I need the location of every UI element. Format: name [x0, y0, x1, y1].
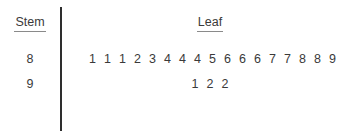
stem-and-leaf-plot: Stem Leaf 8 11123444566677889 9 122: [0, 0, 358, 138]
column-header-leaf-label: Leaf: [197, 15, 223, 32]
stem-value: 9: [0, 77, 60, 91]
leaf-digit: 1: [100, 52, 115, 66]
leaf-digit: 2: [130, 52, 145, 66]
leaf-values-row: 11123444566677889: [62, 52, 358, 66]
leaf-digit: 6: [235, 52, 250, 66]
leaf-digit: 6: [250, 52, 265, 66]
leaf-digit: 1: [85, 52, 100, 66]
leaf-digit: 7: [265, 52, 280, 66]
leaf-digit: 1: [115, 52, 130, 66]
column-header-stem-label: Stem: [14, 15, 45, 32]
leaf-digit: 8: [310, 52, 325, 66]
leaf-digit: 2: [203, 77, 218, 91]
leaf-digit: 4: [160, 52, 175, 66]
leaf-digit: 3: [145, 52, 160, 66]
leaf-digit: 4: [190, 52, 205, 66]
leaf-digit: 5: [205, 52, 220, 66]
column-header-stem: Stem: [0, 15, 60, 32]
leaf-values-row: 122: [62, 77, 358, 91]
leaf-digit: 2: [218, 77, 233, 91]
column-header-leaf: Leaf: [62, 15, 358, 32]
leaf-digit: 7: [280, 52, 295, 66]
leaf-digit: 4: [175, 52, 190, 66]
leaf-digit: 8: [295, 52, 310, 66]
leaf-digit: 6: [220, 52, 235, 66]
stem-value: 8: [0, 52, 60, 66]
stem-leaf-divider-line: [60, 7, 62, 131]
leaf-digit: 9: [325, 52, 340, 66]
leaf-digit: 1: [188, 77, 203, 91]
